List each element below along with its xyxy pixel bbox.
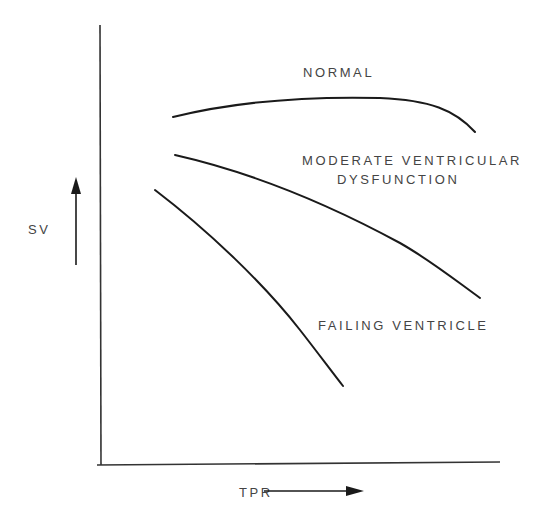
right-arrow-icon [264, 486, 364, 496]
moderate-label-line2: DYSFUNCTION [337, 172, 460, 187]
moderate-label-line1: MODERATE VENTRICULAR [302, 153, 522, 168]
x-axis-label: TPR [239, 485, 273, 500]
y-axis-line [100, 25, 101, 465]
failing-ventricle-curve [155, 190, 343, 386]
x-axis-line [97, 462, 500, 465]
failing-label: FAILING VENTRICLE [318, 318, 489, 333]
chart-figure: NORMAL MODERATE VENTRICULAR DYSFUNCTION … [0, 0, 549, 515]
normal-curve [173, 98, 475, 132]
normal-label: NORMAL [303, 65, 374, 80]
chart-svg: NORMAL MODERATE VENTRICULAR DYSFUNCTION … [0, 0, 549, 515]
y-axis-label: SV [28, 222, 51, 237]
up-arrow-icon [71, 177, 81, 265]
